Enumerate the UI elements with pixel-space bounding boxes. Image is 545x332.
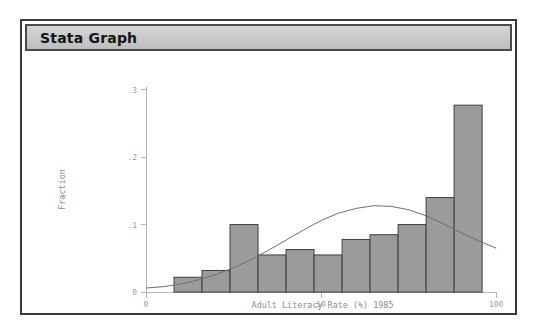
y-axis-title: Fraction <box>57 169 67 210</box>
y-tick-label: .1 <box>128 221 138 230</box>
histogram-bar <box>370 235 398 292</box>
histogram-bars <box>174 105 482 292</box>
stata-graph-window: Stata Graph 0.1.2.3 050100 Fraction Adul… <box>20 19 517 315</box>
y-tick-label: 0 <box>132 288 137 297</box>
histogram-bar <box>454 105 482 292</box>
x-tick-label: 100 <box>489 300 504 309</box>
y-tick-label: .2 <box>128 153 138 162</box>
histogram-bar <box>202 270 230 292</box>
x-axis-title: Adult Literacy Rate (%) 1985 <box>252 300 394 310</box>
histogram-bar <box>258 255 286 292</box>
window-title: Stata Graph <box>27 30 137 46</box>
histogram-bar <box>286 250 314 293</box>
x-tick-label: 0 <box>144 300 149 309</box>
plot-area: 0.1.2.3 050100 Fraction Adult Literacy R… <box>25 54 512 310</box>
window-title-bar: Stata Graph <box>25 24 512 51</box>
y-tick-label: .3 <box>128 86 138 95</box>
histogram-chart: 0.1.2.3 050100 Fraction Adult Literacy R… <box>25 54 512 310</box>
histogram-bar <box>426 198 454 292</box>
y-axis-ticks: 0.1.2.3 <box>128 86 146 297</box>
histogram-bar <box>398 225 426 292</box>
histogram-bar <box>342 239 370 292</box>
histogram-bar <box>314 255 342 292</box>
